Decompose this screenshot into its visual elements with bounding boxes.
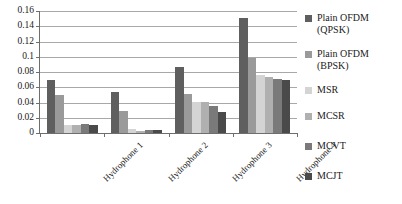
legend-item[interactable]: MCJT	[305, 170, 343, 182]
bar	[192, 102, 201, 133]
bar-group	[169, 11, 233, 133]
bars-container	[40, 11, 297, 133]
bar	[111, 92, 120, 133]
y-tick-label: 0.12	[17, 37, 34, 47]
chart-legend: Plain OFDM (QPSK)Plain OFDM (BPSK)MSRMCS…	[305, 6, 402, 196]
bar-group	[233, 11, 297, 133]
legend-swatch-icon	[305, 87, 312, 94]
legend-label: MCSR	[317, 110, 345, 122]
y-tick-label: 0.14	[17, 22, 34, 32]
bar	[55, 95, 64, 133]
legend-item[interactable]: Plain OFDM (QPSK)	[305, 12, 369, 36]
bar	[201, 102, 210, 133]
bar	[282, 80, 291, 133]
bar	[273, 79, 282, 133]
bar	[81, 124, 90, 133]
y-tick-label: 0.1	[22, 52, 34, 62]
x-tick-mark	[297, 133, 298, 137]
x-tick-mark	[233, 133, 234, 137]
legend-label: Plain OFDM (BPSK)	[317, 48, 369, 72]
y-tick-label: 0.16	[17, 6, 34, 16]
bar-group	[104, 11, 168, 133]
legend-item[interactable]: MCVT	[305, 140, 346, 152]
bar	[184, 94, 193, 133]
bar	[209, 106, 218, 133]
bar-chart-figure: 0.160.140.120.10.080.060.040.020 Hydroph…	[0, 0, 402, 204]
x-tick-label: Hydrophone 1	[101, 140, 145, 184]
x-tick-label: Hydrophone 2	[166, 140, 210, 184]
y-tick-label: 0.02	[17, 113, 34, 123]
x-axis-tick-labels: Hydrophone 1Hydrophone 2Hydrophone 3Hydr…	[40, 138, 297, 198]
x-tick-mark	[40, 133, 41, 137]
bar	[256, 75, 265, 133]
bar	[89, 125, 98, 133]
legend-item[interactable]: Plain OFDM (BPSK)	[305, 48, 369, 72]
plot-region: 0.160.140.120.10.080.060.040.020 Hydroph…	[0, 0, 300, 204]
legend-label: MCJT	[317, 170, 343, 182]
legend-label: MSR	[317, 84, 338, 96]
legend-label: Plain OFDM (QPSK)	[317, 12, 369, 36]
bar	[239, 18, 248, 133]
legend-swatch-icon	[305, 15, 312, 22]
bar	[265, 77, 274, 133]
legend-swatch-icon	[305, 51, 312, 58]
bar	[72, 125, 81, 133]
y-tick-label: 0.06	[17, 83, 34, 93]
bar	[119, 111, 128, 133]
legend-swatch-icon	[305, 113, 312, 120]
bar	[218, 112, 227, 133]
legend-item[interactable]: MSR	[305, 84, 338, 96]
y-tick-label: 0	[29, 128, 34, 138]
x-tick-mark	[104, 133, 105, 137]
bar	[47, 80, 56, 133]
bar	[248, 58, 257, 133]
legend-item[interactable]: MCSR	[305, 110, 345, 122]
legend-swatch-icon	[305, 173, 312, 180]
legend-label: MCVT	[317, 140, 346, 152]
y-axis-tick-labels: 0.160.140.120.10.080.060.040.020	[0, 11, 36, 133]
x-tick-label: Hydrophone 3	[230, 140, 274, 184]
x-tick-mark	[169, 133, 170, 137]
y-tick-label: 0.04	[17, 98, 34, 108]
bar-group	[40, 11, 104, 133]
bar	[175, 67, 184, 133]
y-tick-label: 0.08	[17, 67, 34, 77]
bar	[64, 125, 73, 133]
legend-swatch-icon	[305, 143, 312, 150]
